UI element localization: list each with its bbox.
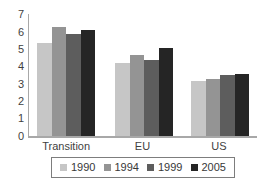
legend-label: 2005 — [202, 161, 226, 174]
bar-us-1994 — [206, 79, 221, 136]
chart-legend: 1990199419992005 — [51, 157, 235, 178]
legend-item-1990: 1990 — [60, 161, 95, 174]
bar-us-1999 — [220, 75, 235, 136]
legend-item-1994: 1994 — [104, 161, 139, 174]
bar-transition-1994 — [52, 27, 67, 136]
legend-label: 1994 — [115, 161, 139, 174]
x-axis-category-label-us: US — [179, 140, 259, 153]
bar-eu-1994 — [130, 55, 145, 136]
y-axis-tick-label: 4 — [3, 60, 24, 73]
x-axis-category-label-eu: EU — [103, 140, 183, 153]
legend-swatch-1994 — [104, 164, 111, 171]
bar-eu-1990 — [115, 63, 130, 136]
y-axis-tick-label: 7 — [3, 8, 24, 21]
bar-eu-1999 — [144, 60, 159, 136]
y-axis-tick-label: 5 — [3, 43, 24, 56]
y-axis-tick-label: 2 — [3, 95, 24, 108]
legend-swatch-1990 — [60, 164, 67, 171]
legend-swatch-2005 — [191, 164, 198, 171]
legend-label: 1999 — [158, 161, 182, 174]
bar-transition-2005 — [81, 30, 96, 136]
bar-transition-1990 — [37, 43, 52, 136]
y-axis-tick-label: 1 — [3, 112, 24, 125]
legend-label: 1990 — [71, 161, 95, 174]
y-axis-tick-label: 3 — [3, 78, 24, 91]
bar-eu-2005 — [159, 48, 174, 136]
x-axis-category-label-transition: Transition — [26, 140, 106, 153]
y-axis-tick-label: 0 — [3, 130, 24, 143]
y-axis-tick-label: 6 — [3, 26, 24, 39]
y-axis-line — [28, 14, 29, 136]
legend-item-1999: 1999 — [147, 161, 182, 174]
x-axis-line — [28, 136, 257, 138]
legend-item-2005: 2005 — [191, 161, 226, 174]
bar-us-2005 — [235, 74, 250, 136]
bar-transition-1999 — [66, 34, 81, 136]
bar-chart: 01234567 TransitionEUUS 1990199419992005 — [0, 0, 269, 183]
legend-swatch-1999 — [147, 164, 154, 171]
bar-us-1990 — [191, 81, 206, 136]
